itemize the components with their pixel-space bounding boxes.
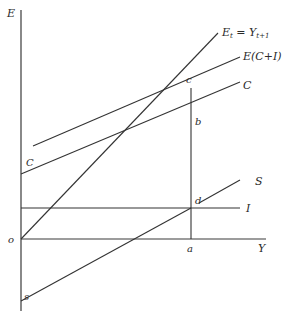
consumption-label-right: C — [243, 79, 252, 92]
point-a-label: a — [187, 243, 193, 254]
equilibrium-line-label: Et = Yt+1 — [221, 26, 269, 40]
investment-label: I — [245, 202, 251, 215]
total-expenditure-label: E(C+I) — [242, 50, 282, 63]
x-axis-label: Y — [258, 242, 267, 255]
total-expenditure-line — [33, 57, 240, 146]
saving-intercept-label: s — [24, 291, 29, 302]
equilibrium-label-eq: = Y — [233, 26, 258, 39]
point-c-label: c — [186, 74, 192, 85]
origin-label: o — [8, 234, 14, 245]
consumption-label-left: C — [26, 157, 34, 168]
saving-line-lower — [21, 208, 191, 301]
keynesian-cross-diagram: E Y o Et = Yt+1 E(C+I) C C S s I c b d a — [0, 0, 295, 323]
point-d-label: d — [195, 195, 201, 206]
consumption-line — [21, 82, 240, 174]
saving-label: S — [255, 175, 263, 188]
equilibrium-label-sub-t1: t+1 — [256, 32, 269, 40]
saving-line-upper — [199, 180, 240, 203]
y-axis-label: E — [6, 7, 15, 20]
equilibrium-label-E: E — [221, 26, 230, 39]
point-b-label: b — [195, 116, 201, 127]
